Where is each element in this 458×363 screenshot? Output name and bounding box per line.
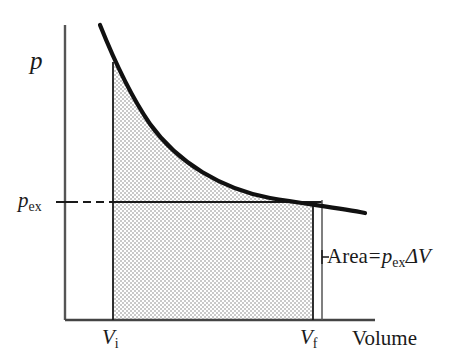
equals-sign: = bbox=[368, 244, 382, 268]
area-annotation: Area=pexΔV bbox=[327, 246, 431, 270]
pv-diagram-figure: p pex Vi Vf Volume Area=pexΔV bbox=[0, 0, 458, 363]
vi-subscript: i bbox=[115, 336, 119, 351]
pex-symbol: p bbox=[18, 188, 29, 212]
vf-subscript: f bbox=[313, 336, 318, 351]
area-word: Area bbox=[327, 244, 368, 268]
shaded-upper-wedge bbox=[113, 62, 313, 202]
pex-axis-label: pex bbox=[18, 190, 42, 214]
x-axis-label: Volume bbox=[352, 328, 417, 349]
delta-v-symbol: ΔV bbox=[406, 244, 431, 268]
area-p-subscript: ex bbox=[392, 255, 405, 270]
vf-symbol: V bbox=[300, 325, 313, 349]
pex-subscript: ex bbox=[29, 199, 42, 214]
vi-symbol: V bbox=[102, 325, 115, 349]
vf-axis-label: Vf bbox=[300, 327, 318, 351]
vi-axis-label: Vi bbox=[102, 327, 119, 351]
area-p-symbol: p bbox=[382, 244, 393, 268]
shaded-work-area bbox=[113, 202, 313, 320]
plot-canvas bbox=[0, 0, 458, 363]
y-axis-label: p bbox=[30, 48, 43, 73]
